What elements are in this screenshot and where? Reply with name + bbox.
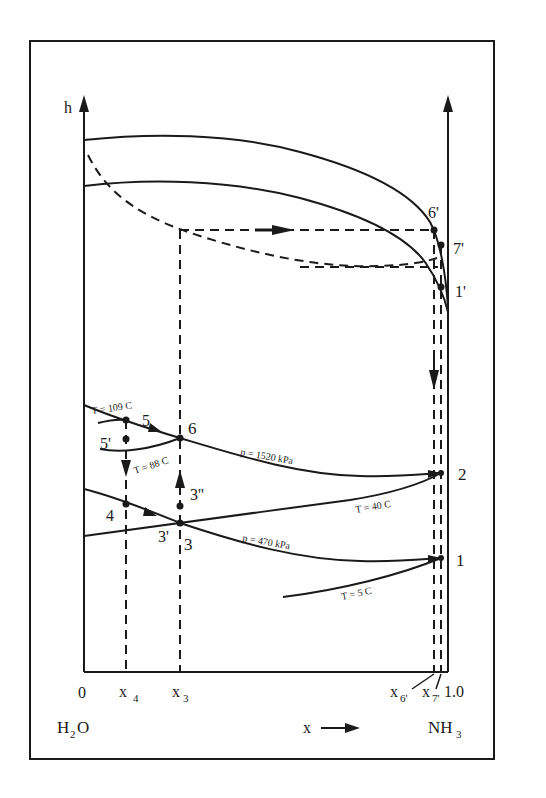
dot-6 — [177, 435, 184, 442]
dot-6prime — [431, 227, 438, 234]
dot-2 — [438, 470, 444, 476]
tick-1: 1.0 — [444, 683, 464, 700]
label-2: 2 — [458, 465, 467, 484]
left-axis-arrow-icon — [79, 95, 89, 112]
label-t40: T = 40 C — [354, 498, 391, 515]
svg-text:x: x — [303, 719, 311, 736]
label-3: 3 — [184, 535, 193, 554]
dot-3 — [177, 520, 184, 527]
arrow-along-isobar-icon — [148, 423, 162, 432]
label-1: 1 — [456, 551, 465, 570]
label-4: 4 — [106, 507, 114, 524]
ammonia-label: NH 3 — [428, 718, 462, 740]
state-point-dots — [123, 227, 445, 562]
water-label: H 2 O — [57, 718, 89, 740]
figure-frame — [30, 41, 494, 759]
x-axis-title: x — [303, 719, 360, 736]
dot-5 — [123, 417, 130, 424]
tick-x6prime: x — [390, 683, 398, 700]
arrow-right-icon — [345, 723, 360, 733]
svg-text:3: 3 — [456, 728, 462, 740]
svg-text:O: O — [77, 718, 89, 737]
label-6prime: 6' — [428, 204, 439, 221]
right-axis-arrow-icon — [443, 95, 453, 112]
arrow-along-isobar-icon — [143, 507, 157, 516]
dot-7prime — [438, 242, 445, 249]
auxiliary-dashed-curve — [88, 155, 437, 266]
leader-x7prime — [436, 674, 441, 689]
tick-x6prime-sub: 6' — [400, 692, 408, 704]
dot-1prime — [438, 284, 445, 291]
tick-0: 0 — [78, 684, 86, 701]
label-5prime: 5' — [100, 435, 111, 452]
label-3dprime: 3'' — [190, 486, 204, 503]
tick-x4: x — [119, 683, 127, 700]
dot-3dprime — [177, 503, 184, 510]
label-t109: T = 109 C — [91, 399, 133, 416]
tick-x7prime-sub: 7' — [432, 692, 440, 704]
label-t88: T = 88 C — [132, 454, 170, 476]
vapor-curves — [84, 136, 448, 312]
label-1prime: 1' — [455, 283, 466, 300]
label-3prime: 3' — [158, 528, 169, 545]
tick-x3: x — [172, 683, 180, 700]
isotherm-88c — [100, 438, 180, 451]
tick-x7prime: x — [422, 683, 430, 700]
label-7prime: 7' — [453, 240, 464, 257]
arrow-down-icon — [121, 460, 131, 477]
vapor-line-low-pressure — [84, 182, 448, 312]
label-5: 5 — [142, 412, 150, 429]
tick-x3-sub: 3 — [183, 692, 189, 704]
vapor-line-high-pressure — [84, 136, 448, 308]
label-6: 6 — [188, 419, 197, 438]
svg-text:2: 2 — [70, 728, 76, 740]
svg-text:NH: NH — [428, 718, 453, 737]
h-x-diagram: h 0 x 4 x 3 x 6' x 7' 1.0 H 2 O NH 3 x 6… — [0, 0, 546, 798]
svg-text:H: H — [57, 718, 69, 737]
construction-lines — [126, 230, 441, 672]
isotherm-109c — [98, 420, 126, 423]
tick-x4-sub: 4 — [133, 692, 139, 704]
h-axis-label: h — [64, 99, 72, 116]
dot-4 — [123, 501, 130, 508]
dot-5prime — [123, 436, 130, 443]
dot-1 — [438, 555, 444, 561]
